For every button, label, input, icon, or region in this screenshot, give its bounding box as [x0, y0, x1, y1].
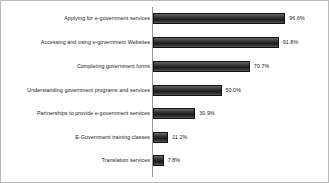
bar-track: 70.7% [153, 55, 269, 78]
bar-category-label: Understanding government programs and se… [5, 87, 150, 94]
bar-track: 7.8% [153, 149, 180, 172]
bar-value-label: 50.0% [226, 87, 241, 94]
bar-value-label: 91.8% [283, 39, 298, 46]
bar-value-label: 30.9% [199, 110, 214, 117]
bar-track: 96.6% [153, 7, 305, 30]
bar-category-label: Accessing and using e-government Website… [5, 39, 150, 46]
bar-rect [153, 13, 285, 24]
bar-track: 30.9% [153, 102, 215, 125]
bar-rect [153, 155, 164, 166]
bar-row: Translation services 7.8% [1, 149, 328, 172]
bar-rect [153, 61, 250, 72]
bar-row: Completing government forms 70.7% [1, 55, 328, 78]
bar-category-label: Completing government forms [5, 63, 150, 70]
bar-value-label: 11.2% [172, 134, 187, 141]
bar-value-label: 70.7% [254, 63, 269, 70]
bar-row: Applying for e-government services 96.6% [1, 7, 328, 30]
bar-category-label: Partnerships to provide e-government ser… [5, 110, 150, 117]
bar-rect [153, 85, 222, 96]
bar-category-label: E-Government training classes [5, 134, 150, 141]
bar-category-label: Translation services [5, 157, 150, 164]
bar-rect [153, 37, 279, 48]
bar-category-label: Applying for e-government services [5, 15, 150, 22]
bar-row: Understanding government programs and se… [1, 79, 328, 102]
bar-rect [153, 108, 195, 119]
plot-area: Applying for e-government services 96.6%… [1, 1, 328, 182]
bar-chart: Applying for e-government services 96.6%… [0, 0, 329, 183]
bar-rect [153, 132, 168, 143]
bar-row: Accessing and using e-government Website… [1, 31, 328, 54]
bar-row: E-Government training classes 11.2% [1, 126, 328, 149]
bar-row: Partnerships to provide e-government ser… [1, 102, 328, 125]
bar-track: 11.2% [153, 126, 187, 149]
bar-track: 91.8% [153, 31, 298, 54]
bar-track: 50.0% [153, 79, 241, 102]
bar-value-label: 96.6% [289, 15, 304, 22]
bar-value-label: 7.8% [168, 157, 180, 164]
